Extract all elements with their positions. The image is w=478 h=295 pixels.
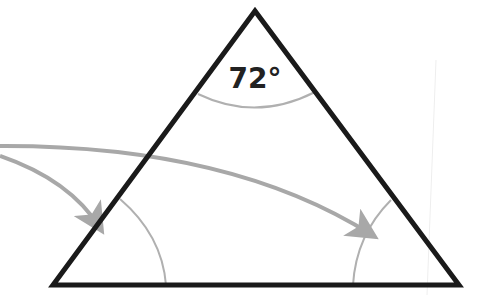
apex-angle-label: 72° [229, 62, 282, 95]
arrow-to-left-angle [0, 156, 100, 228]
faint-background-line [427, 60, 436, 295]
triangle-diagram: 72° [0, 0, 478, 295]
bottom-left-angle-arc [120, 199, 166, 285]
triangle-outline [53, 11, 459, 285]
bottom-right-angle-arc [353, 200, 391, 285]
arrow-to-right-angle [0, 146, 372, 235]
diagram-canvas: 72° [0, 0, 478, 295]
